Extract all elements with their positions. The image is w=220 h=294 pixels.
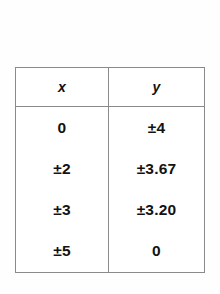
cell-x-value: ±2: [16, 148, 109, 189]
xy-value-table: x y 0 ±4 ±2 ±3.67 ±3 ±3.20 ±5 0: [15, 67, 205, 273]
table-row: 0 ±4: [16, 107, 205, 149]
column-header-x: x: [16, 68, 109, 107]
table-row: ±3 ±3.20: [16, 189, 205, 230]
column-header-y: y: [109, 68, 205, 107]
table-header: x y: [16, 68, 205, 107]
cell-x-value: ±5: [16, 231, 109, 273]
cell-y-value: ±3.20: [109, 189, 205, 230]
cell-y-value: ±4: [109, 107, 205, 149]
cell-y-value: 0: [109, 231, 205, 273]
cell-x-value: 0: [16, 107, 109, 149]
page-canvas: x y 0 ±4 ±2 ±3.67 ±3 ±3.20 ±5 0: [0, 0, 220, 294]
table-body: 0 ±4 ±2 ±3.67 ±3 ±3.20 ±5 0: [16, 107, 205, 273]
table-header-row: x y: [16, 68, 205, 107]
cell-x-value: ±3: [16, 189, 109, 230]
table-row: ±5 0: [16, 231, 205, 273]
table-row: ±2 ±3.67: [16, 148, 205, 189]
cell-y-value: ±3.67: [109, 148, 205, 189]
